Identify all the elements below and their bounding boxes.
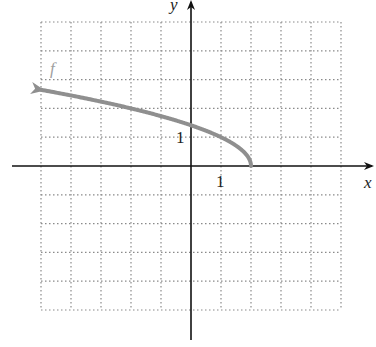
series-f-label: f [50, 59, 57, 78]
y-axis-label: y [168, 0, 178, 14]
y-tick-label: 1 [176, 128, 185, 147]
x-tick-label: 1 [216, 172, 225, 191]
series-f-curve [41, 90, 251, 166]
function-graph: x y 1 1 f [0, 0, 376, 347]
x-axis-label: x [363, 173, 372, 192]
